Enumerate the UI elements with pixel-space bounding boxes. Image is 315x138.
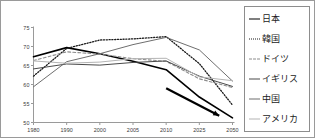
legend-item-0[interactable]: 日本 xyxy=(245,9,309,29)
x-axis: 1980199020002005201020252050 xyxy=(27,123,238,133)
legend-line-swatch-icon xyxy=(249,94,260,104)
chart-legend: 日本韓国ドイツイギリス中国アメリカ xyxy=(244,6,310,132)
series-line-2 xyxy=(34,52,233,88)
legend-item-3[interactable]: イギリス xyxy=(245,69,309,89)
y-tick-label: 75 xyxy=(23,25,29,31)
x-tick-label: 2025 xyxy=(193,127,205,133)
y-tick-label: 70 xyxy=(23,44,29,50)
x-tick-label: 2005 xyxy=(127,127,139,133)
legend-item-label: ドイツ xyxy=(262,55,289,64)
legend-line-swatch-icon xyxy=(249,54,260,64)
x-tick-label: 1990 xyxy=(60,127,72,133)
legend-item-5[interactable]: アメリカ xyxy=(245,109,309,129)
data-series-group xyxy=(34,37,233,118)
y-tick-label: 55 xyxy=(23,101,29,107)
series-line-1 xyxy=(34,37,233,105)
x-tick-label: 2000 xyxy=(94,127,106,133)
legend-item-2[interactable]: ドイツ xyxy=(245,49,309,69)
legend-line-swatch-icon xyxy=(249,14,260,24)
legend-item-label: 日本 xyxy=(262,15,280,24)
legend-line-swatch-icon xyxy=(249,34,260,44)
legend-item-label: 中国 xyxy=(262,95,280,104)
chart-screenshot: 505560657075 198019902000200520102025205… xyxy=(0,0,315,138)
x-tick-label: 1980 xyxy=(27,127,39,133)
chart-plot-area: 505560657075 198019902000200520102025205… xyxy=(0,0,240,138)
x-tick-label: 2050 xyxy=(226,127,238,133)
legend-line-swatch-icon xyxy=(249,114,260,124)
y-axis: 505560657075 xyxy=(23,25,33,126)
legend-item-label: イギリス xyxy=(262,75,298,84)
line-chart-svg: 505560657075 198019902000200520102025205… xyxy=(0,0,240,138)
y-tick-label: 65 xyxy=(23,63,29,69)
y-tick-label: 50 xyxy=(23,120,29,126)
legend-item-label: 韓国 xyxy=(262,35,280,44)
x-tick-label: 2010 xyxy=(160,127,172,133)
legend-item-1[interactable]: 韓国 xyxy=(245,29,309,49)
legend-line-swatch-icon xyxy=(249,74,260,84)
legend-item-label: アメリカ xyxy=(262,115,298,124)
y-tick-label: 60 xyxy=(23,82,29,88)
legend-item-4[interactable]: 中国 xyxy=(245,89,309,109)
